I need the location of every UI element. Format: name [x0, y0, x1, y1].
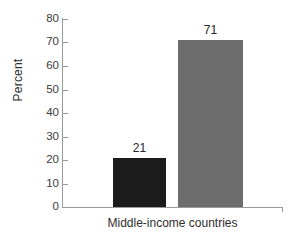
y-tick-label-40: 40 — [29, 107, 59, 119]
y-tick-label-70: 70 — [29, 36, 59, 48]
y-axis-title: Percent — [11, 30, 27, 130]
y-tick-label-20: 20 — [29, 154, 59, 166]
y-tick-label-80: 80 — [29, 13, 59, 25]
y-tick-label-10: 10 — [29, 178, 59, 190]
bar-value-label-1: 21 — [113, 142, 166, 154]
y-tick-label-30: 30 — [29, 131, 59, 143]
bar-value-label-2: 71 — [178, 24, 243, 36]
bar-series-2 — [178, 40, 243, 207]
bar-chart: Percent 80 70 60 50 40 30 20 10 0 21 71 … — [0, 0, 300, 238]
bar-series-1 — [113, 158, 166, 207]
x-axis-category-label: Middle-income countries — [62, 216, 283, 230]
x-axis-line — [62, 207, 283, 208]
bars-container — [62, 19, 283, 207]
x-axis-end-tick — [282, 207, 283, 212]
y-tick-0 — [63, 207, 68, 208]
y-tick-label-50: 50 — [29, 84, 59, 96]
y-tick-label-60: 60 — [29, 60, 59, 72]
y-tick-label-0: 0 — [29, 201, 59, 213]
